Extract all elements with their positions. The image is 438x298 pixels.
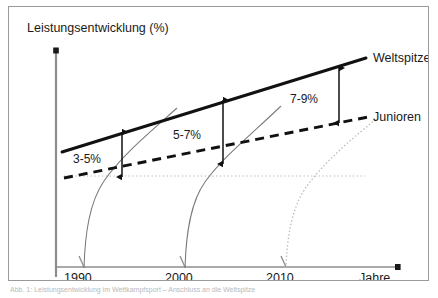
x-tick-2000	[180, 256, 185, 267]
x-tick-1990	[79, 256, 84, 267]
x-tick-2010	[281, 256, 286, 267]
gap-label-3-5: 3-5%	[73, 152, 101, 166]
series-curve-kohorte-2010	[286, 120, 375, 268]
gap-label-5-7: 5-7%	[173, 128, 201, 142]
x-axis-ticks	[79, 256, 286, 267]
series-line-weltspitze	[62, 58, 366, 152]
series-label-junioren: Junioren	[373, 110, 421, 124]
gap-annotation-7-9: 7-9%	[290, 68, 339, 123]
chart-frame: Leistungsentwicklung (%) 1990 2000 2010 …	[8, 6, 429, 281]
y-axis-arrow-icon	[53, 48, 59, 54]
x-tick-label-1990: 1990	[64, 271, 92, 280]
x-axis-title: Jahre	[359, 271, 390, 280]
y-axis-title: Leistungsentwicklung (%)	[27, 21, 169, 35]
figure-caption: Abb. 1: Leistungsentwicklung im Wettkamp…	[10, 285, 430, 294]
series-label-weltspitze: Weltspitze	[373, 51, 428, 65]
figure-root: Leistungsentwicklung (%) 1990 2000 2010 …	[0, 0, 438, 298]
x-tick-label-2000: 2000	[165, 271, 193, 280]
x-axis-arrow-icon	[395, 264, 401, 270]
gap-label-7-9: 7-9%	[290, 92, 318, 106]
x-tick-label-2010: 2010	[266, 271, 294, 280]
performance-development-chart: Leistungsentwicklung (%) 1990 2000 2010 …	[9, 7, 428, 280]
